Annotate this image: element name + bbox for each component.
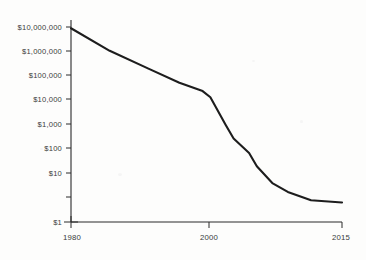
x-tick-label-1980: 1980 (63, 233, 82, 242)
y-tick-label-1000: $1,000 (38, 120, 62, 129)
line-chart: $10,000,000 $1,000,000 $100,000 $10,000 … (0, 0, 366, 260)
x-tick-label-2000: 2000 (200, 233, 219, 242)
y-tick-label-100000: $100,000 (29, 71, 62, 80)
x-tick-label-2015: 2015 (332, 233, 351, 242)
y-tick-label-10000: $10,000 (33, 95, 62, 104)
y-tick-label-100: $100 (44, 144, 62, 153)
chart-container: $10,000,000 $1,000,000 $100,000 $10,000 … (0, 0, 366, 260)
y-tick-label-10: $10 (49, 169, 62, 178)
y-tick-label-10000000: $10,000,000 (18, 23, 62, 32)
y-tick-label-1000000: $1,000,000 (22, 47, 62, 56)
data-series-cost (71, 28, 342, 202)
y-axis: $10,000,000 $1,000,000 $100,000 $10,000 … (18, 20, 78, 227)
x-axis: 1980 2000 2015 (63, 216, 351, 242)
y-tick-label-1: $1 (53, 218, 62, 227)
data-line-cost (71, 28, 342, 202)
